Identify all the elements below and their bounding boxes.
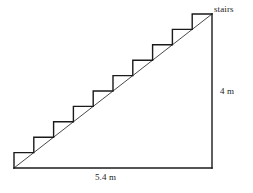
stairs-triangle-figure	[0, 0, 253, 193]
height-measurement-label: 4 m	[220, 86, 234, 97]
base-measurement-label: 5.4 m	[95, 172, 116, 183]
diagram-canvas: stairs 4 m 5.4 m	[0, 0, 253, 193]
stairs-label: stairs	[214, 4, 234, 15]
